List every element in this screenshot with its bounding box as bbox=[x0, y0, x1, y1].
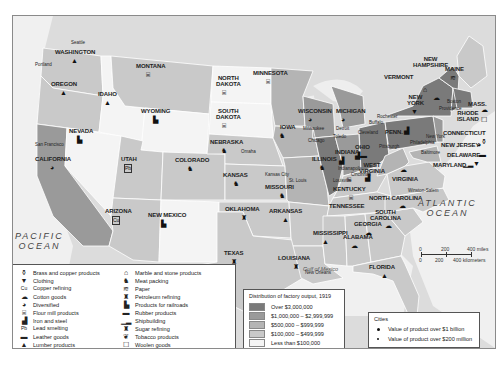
output-legend-item: $1,000,000 – $2,999,999 bbox=[249, 312, 333, 320]
legend-railroad: ▙Products for railroads bbox=[121, 301, 188, 309]
state-label-oklahoma: OKLAHOMA bbox=[225, 206, 260, 212]
legend-leather: ▬Leather goods bbox=[19, 333, 69, 340]
brass-icon: ⚱ bbox=[19, 269, 29, 277]
state-label-missouri: MISSOURI bbox=[265, 184, 294, 190]
cotton-icon: ☁ bbox=[400, 166, 407, 173]
copper-icon: Cu bbox=[19, 285, 29, 291]
cotton-icon: ☁ bbox=[481, 106, 488, 113]
railroad-icon: ▙ bbox=[121, 301, 131, 309]
city-pittsburgh: Pittsburgh bbox=[379, 144, 399, 149]
output-legend-item: Over $3,000,000 bbox=[249, 303, 313, 311]
pacific-ocean-label: PACIFICOCEAN bbox=[15, 231, 64, 251]
city-baltimore: Baltimore bbox=[421, 150, 440, 155]
city-providence: Providence bbox=[439, 106, 462, 111]
city-milwaukee: Milwaukee bbox=[303, 126, 324, 131]
legend-clothing: ▼Clothing bbox=[19, 277, 54, 284]
meat-icon: ♞ bbox=[279, 192, 285, 199]
state-label-delaware: DELAWARE bbox=[447, 152, 480, 158]
state-label-penn: PENN. bbox=[385, 129, 403, 135]
legend-flour: ⌸Flour mill products bbox=[19, 309, 79, 317]
state-label-georgia: GEORGIA bbox=[354, 221, 382, 227]
city-philadelphia: Philadelphia bbox=[410, 140, 435, 145]
city-indianapolis: Indianapolis bbox=[338, 166, 362, 171]
output-legend-title: Distribution of factory output, 1919 bbox=[249, 293, 331, 299]
leather-icon: ▬ bbox=[19, 333, 29, 340]
state-label-kentucky: KENTUCKY bbox=[333, 186, 366, 192]
city-new-orleans: New Orleans bbox=[305, 270, 331, 275]
iron-steel-icon: ▟ bbox=[404, 127, 409, 134]
rubber-icon: ▬ bbox=[121, 309, 131, 316]
state-label-new-hampshire: NEWHAMPSHIRE bbox=[413, 56, 448, 68]
legend-petroleum: ♜Petroleum refining bbox=[121, 293, 180, 301]
state-label-minnesota: MINNESOTA bbox=[253, 70, 288, 76]
cotton-icon: ☁ bbox=[399, 202, 406, 209]
us-factory-output-map: PACIFICOCEAN ATLANTICOCEAN Gulf of Mexic… bbox=[12, 15, 496, 349]
lumber-icon: ▲ bbox=[71, 57, 78, 64]
state-label-mass: MASS. bbox=[468, 101, 487, 107]
output-legend-item: $100,000 – $499,999 bbox=[249, 330, 324, 338]
scale-bar: 0 200 400 miles 0 200 400 kilometers bbox=[417, 246, 495, 266]
marble-icon: ⌂ bbox=[423, 86, 427, 93]
state-label-utah: UTAH bbox=[121, 156, 137, 162]
legend-rubber: ▬Rubber products bbox=[121, 309, 176, 316]
state-label-vermont: VERMONT bbox=[384, 74, 413, 80]
lumber-icon: ▲ bbox=[282, 216, 289, 223]
city-cleveland: Cleveland bbox=[358, 130, 378, 135]
city-san-francisco: San Francisco bbox=[35, 142, 64, 147]
railroad-icon: ▙ bbox=[77, 136, 82, 143]
cotton-icon: ☁ bbox=[19, 293, 29, 301]
city-chicago: Chicago bbox=[308, 138, 325, 143]
state-label-arizona: ARIZONA bbox=[105, 208, 132, 214]
state-label-michigan: MICHIGAN bbox=[336, 108, 366, 114]
state-label-virginia: VIRGINIA bbox=[392, 176, 418, 182]
lumber-icon: ▲ bbox=[104, 99, 111, 106]
clothing-icon: ▼ bbox=[19, 277, 29, 284]
cities-legend-title: Cities bbox=[374, 316, 388, 322]
state-label-wyoming: WYOMING bbox=[141, 108, 170, 114]
legend-marble: ⌂Marble and stone products bbox=[121, 269, 201, 276]
legend-sugar: ♜Sugar refining bbox=[121, 325, 170, 333]
city-buffalo: Buffalo bbox=[369, 120, 383, 125]
lumber-icon: ▲ bbox=[19, 341, 29, 348]
state-label-new-jersey: NEW JERSEY bbox=[441, 142, 479, 148]
legend-cotton: ☁Cotton goods bbox=[19, 293, 66, 301]
legend-meat: ♞Meat packing bbox=[121, 277, 168, 285]
state-label-florida: FLORIDA bbox=[369, 264, 395, 270]
state-label-ohio: OHIO bbox=[355, 144, 370, 150]
state-label-nevada: NEVADA bbox=[69, 128, 93, 134]
legend-iron-steel: ▟Iron and steel bbox=[19, 317, 67, 325]
woolen-icon: ☐ bbox=[481, 116, 487, 123]
output-legend-item: $500,000 – $999,999 bbox=[249, 321, 324, 329]
diversified-icon: ◕ bbox=[308, 116, 312, 123]
flour-icon: ⌸ bbox=[146, 71, 150, 78]
legend-lumber: ▲Lumber products bbox=[19, 341, 75, 348]
iron-steel-icon: ▟ bbox=[339, 157, 344, 164]
meat-icon: ♞ bbox=[221, 147, 227, 154]
diversified-icon: ◕ bbox=[19, 301, 29, 308]
state-label-kansas: KANSAS bbox=[223, 172, 248, 178]
flour-icon: ⌸ bbox=[349, 194, 353, 201]
cotton-icon: ☁ bbox=[365, 229, 372, 236]
legend-paper: ≋Paper bbox=[121, 285, 150, 293]
lumber-icon: ▲ bbox=[60, 89, 67, 96]
city-kansas-city: Kansas City bbox=[265, 172, 289, 177]
diversified-icon: ◕ bbox=[341, 116, 345, 123]
city-portland: Portland bbox=[35, 62, 52, 67]
output-legend-item: Less than $100,000 bbox=[249, 339, 320, 347]
city-boston: Boston bbox=[447, 99, 461, 104]
atlantic-ocean-label: ATLANTICOCEAN bbox=[418, 198, 477, 218]
city-detroit: Detroit bbox=[336, 126, 349, 131]
flour-icon: ⌸ bbox=[266, 78, 270, 85]
flour-icon: ⌸ bbox=[222, 89, 226, 96]
meat-icon: ♞ bbox=[187, 165, 193, 172]
city-winston-salem: Winston-Salem bbox=[408, 188, 439, 193]
state-label-new-york: NEWYORK bbox=[407, 94, 424, 106]
state-label-maryland: MARYLAND bbox=[433, 162, 466, 168]
city-new-york: New York bbox=[426, 134, 445, 139]
sugar-icon: ♜ bbox=[293, 263, 299, 270]
lumber-icon: ▲ bbox=[381, 272, 388, 279]
brass-icon: ⚱ bbox=[481, 138, 487, 145]
output-legend: Distribution of factory output, 1919 Ove… bbox=[243, 289, 345, 349]
state-label-nebraska: NEBRASKA bbox=[210, 139, 243, 145]
state-label-colorado: COLORADO bbox=[175, 157, 209, 163]
